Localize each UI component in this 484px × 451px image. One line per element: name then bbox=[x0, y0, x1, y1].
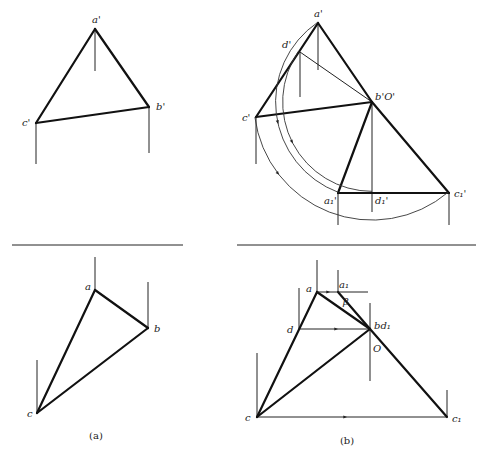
front-view-point-label: c' bbox=[22, 117, 30, 128]
top-view-point-label: d bbox=[287, 324, 293, 335]
top-view-b: βaa₁dbd₁Occ₁ bbox=[245, 260, 462, 424]
front-view-edge bbox=[95, 29, 149, 107]
top-view-edge bbox=[37, 290, 95, 413]
front-view-edge bbox=[318, 23, 372, 102]
front-view-edge bbox=[36, 29, 95, 123]
panel-caption: (b) bbox=[340, 435, 354, 446]
front-view-edge bbox=[338, 102, 372, 193]
front-view-point-label: a' bbox=[92, 14, 101, 25]
front-view-point-label: b' bbox=[156, 101, 165, 112]
top-view-edge bbox=[37, 328, 148, 413]
panel-a: a'b'c'abc(a) bbox=[12, 14, 183, 441]
arc-c-rotation bbox=[255, 117, 448, 220]
top-view-edge bbox=[95, 290, 148, 328]
direction-arrow-icon bbox=[326, 290, 330, 293]
top-view-edge bbox=[370, 329, 447, 417]
top-view-point-label: O bbox=[373, 343, 381, 354]
front-view-point-label: c₁' bbox=[454, 188, 466, 199]
top-view-a: abc bbox=[27, 257, 160, 419]
front-view-point-label: d' bbox=[282, 39, 291, 50]
front-view-edge bbox=[36, 107, 149, 123]
front-view-point-label: a₁' bbox=[324, 195, 337, 206]
front-view-edge bbox=[256, 23, 318, 117]
arc-d-rotation bbox=[283, 51, 372, 191]
front-view-b: a'd'b'O'c'a₁'d₁'c₁' bbox=[242, 8, 466, 225]
front-view-construction-line bbox=[300, 52, 372, 102]
top-view-point-label: bd₁ bbox=[374, 320, 391, 331]
top-view-point-label: a bbox=[306, 283, 312, 294]
front-view-point-label: a' bbox=[314, 8, 323, 19]
panel-caption: (a) bbox=[89, 430, 103, 441]
angle-beta-label: β bbox=[342, 296, 349, 307]
direction-arrow-icon bbox=[343, 415, 347, 418]
top-view-point-label: a₁ bbox=[339, 279, 349, 290]
top-view-point-label: b bbox=[154, 323, 160, 334]
top-view-point-label: c₁ bbox=[452, 413, 462, 424]
front-view-edge bbox=[372, 102, 449, 193]
orthographic-rotation-diagram: a'b'c'abc(a)a'd'b'O'c'a₁'d₁'c₁'βaa₁dbd₁O… bbox=[0, 0, 484, 451]
top-view-edge bbox=[257, 292, 317, 417]
top-view-point-label: c bbox=[27, 408, 33, 419]
direction-arrow-icon bbox=[334, 327, 338, 330]
front-view-point-label: c' bbox=[242, 112, 250, 123]
front-view-point-label: b'O' bbox=[375, 91, 395, 102]
panel-b: a'd'b'O'c'a₁'d₁'c₁'βaa₁dbd₁Occ₁(b) bbox=[237, 8, 476, 446]
top-view-edge bbox=[257, 329, 370, 417]
top-view-point-label: a bbox=[85, 281, 91, 292]
top-view-point-label: c bbox=[245, 412, 251, 423]
front-view-point-label: d₁' bbox=[375, 195, 388, 206]
front-view-edge bbox=[256, 102, 372, 117]
front-view-a: a'b'c' bbox=[22, 14, 165, 164]
figure-canvas: a'b'c'abc(a)a'd'b'O'c'a₁'d₁'c₁'βaa₁dbd₁O… bbox=[0, 0, 484, 451]
